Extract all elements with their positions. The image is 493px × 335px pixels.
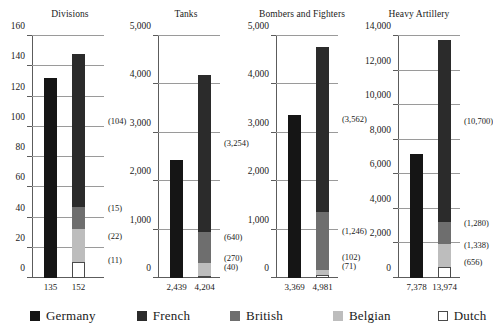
y-tick-label: 80: [16, 142, 26, 152]
legend-item-dutch[interactable]: Dutch: [438, 308, 487, 324]
y-tick-mark: [271, 83, 276, 84]
legend-swatch-belgian-icon: [333, 311, 343, 321]
legend-item-british[interactable]: British: [230, 308, 283, 324]
segment-belgian: [72, 229, 85, 261]
totals-row: 135152: [0, 282, 128, 296]
y-tick-label: 2,000: [370, 228, 391, 238]
segment-value-label-french: (10,700): [464, 116, 493, 126]
y-tick-mark: [153, 277, 158, 278]
legend-swatch-germany-icon: [30, 311, 40, 321]
y-tick-mark: [271, 229, 276, 230]
y-tick-label: 5,000: [248, 21, 269, 31]
y-tick-mark: [271, 132, 276, 133]
y-tick-mark: [393, 70, 398, 71]
y-tick-label: 160: [11, 21, 25, 31]
y-tick-mark: [393, 208, 398, 209]
y-tick-mark: [393, 242, 398, 243]
y-tick-mark: [27, 35, 32, 36]
gridline: [32, 217, 104, 218]
bar-german: [44, 78, 57, 278]
gridline: [398, 35, 460, 36]
segment-value-label-belgian: (1,338): [464, 240, 489, 250]
bar-german: [170, 160, 183, 278]
panel-bombers-and-fighters: Bombers and Fighters 01,0002,0003,0004,0…: [238, 0, 362, 300]
segment-germany: [170, 160, 183, 278]
y-tick-label: 6,000: [370, 159, 391, 169]
gridline: [158, 35, 220, 36]
gridline: [32, 277, 104, 278]
totals-row: 2,4394,204: [128, 282, 238, 296]
segment-germany: [288, 115, 301, 278]
y-tick-label: 1,000: [248, 215, 269, 225]
total-german: 3,369: [284, 282, 304, 292]
y-tick-mark: [393, 35, 398, 36]
y-tick-mark: [271, 277, 276, 278]
y-tick-label: 10,000: [365, 90, 391, 100]
y-tick-mark: [27, 277, 32, 278]
plot-area: 01,0002,0003,0004,0005,000 (71)(102)(1,2…: [276, 36, 338, 278]
y-tick-label: 4,000: [130, 69, 151, 79]
gridline: [32, 247, 104, 248]
bar-german: [410, 154, 423, 278]
segment-value-label-dutch: (11): [108, 255, 122, 265]
y-tick-mark: [153, 83, 158, 84]
y-tick-label: 1,000: [130, 215, 151, 225]
y-tick-label: 8,000: [370, 125, 391, 135]
y-tick-label: 4,000: [248, 69, 269, 79]
y-tick-mark: [27, 217, 32, 218]
y-tick-label: 14,000: [365, 21, 391, 31]
gridline: [276, 35, 338, 36]
bar-allied: [72, 54, 85, 278]
panel-title: Heavy Artillery: [362, 9, 474, 19]
y-tick-label: 120: [11, 82, 25, 92]
segment-value-label-dutch: (71): [342, 261, 356, 271]
bar-german: [288, 115, 301, 278]
plot-area: 02,0004,0006,0008,00010,00012,00014,000 …: [398, 36, 460, 278]
total-allied: 4,204: [194, 282, 214, 292]
y-tick-label: 0: [264, 263, 269, 273]
y-tick-label: 5,000: [130, 21, 151, 31]
y-axis-line: [276, 36, 277, 278]
y-tick-label: 2,000: [248, 166, 269, 176]
legend-label: Belgian: [349, 308, 391, 324]
total-german: 7,378: [406, 282, 426, 292]
segment-dutch: [198, 276, 211, 278]
y-tick-mark: [393, 173, 398, 174]
bar-allied: [198, 75, 211, 278]
total-german: 2,439: [166, 282, 186, 292]
segment-dutch: [72, 262, 85, 278]
legend-label: British: [246, 308, 283, 324]
plot-area: 020406080100120140160 (11)(22)(15)(104): [32, 36, 104, 278]
total-allied: 13,974: [432, 282, 457, 292]
legend-item-belgian[interactable]: Belgian: [333, 308, 391, 324]
legend-item-germany[interactable]: Germany: [30, 308, 96, 324]
legend: GermanyFrenchBritishBelgianDutch: [0, 305, 474, 327]
segment-dutch: [438, 267, 451, 278]
y-tick-label: 0: [386, 263, 391, 273]
y-tick-label: 40: [16, 203, 26, 213]
plot-area: 01,0002,0003,0004,0005,000 (40)(270)(640…: [158, 36, 220, 278]
y-tick-mark: [393, 104, 398, 105]
bar-allied: [316, 47, 329, 278]
segment-value-label-british: (1,280): [464, 218, 489, 228]
segment-french: [316, 47, 329, 212]
segment-british: [316, 212, 329, 270]
y-tick-label: 12,000: [365, 56, 391, 66]
y-tick-label: 3,000: [130, 118, 151, 128]
y-tick-label: 4,000: [370, 194, 391, 204]
segment-belgian: [198, 263, 211, 276]
y-tick-mark: [393, 277, 398, 278]
y-tick-mark: [153, 35, 158, 36]
segment-germany: [410, 154, 423, 278]
total-allied: 4,981: [312, 282, 332, 292]
legend-item-french[interactable]: French: [137, 308, 190, 324]
totals-row: 7,37813,974: [362, 282, 474, 296]
totals-row: 3,3694,981: [238, 282, 362, 296]
y-tick-mark: [27, 65, 32, 66]
legend-label: Germany: [46, 308, 96, 324]
y-tick-mark: [27, 156, 32, 157]
y-tick-label: 20: [16, 233, 26, 243]
y-tick-mark: [271, 180, 276, 181]
y-axis-line: [32, 36, 33, 278]
